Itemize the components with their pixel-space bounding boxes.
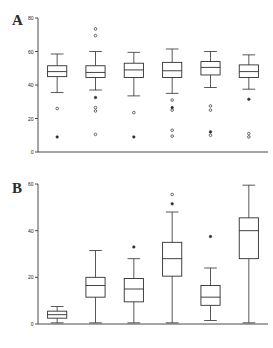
box-iqr: [163, 62, 182, 77]
y-axis-tick-label: 0: [31, 321, 34, 327]
box-iqr: [163, 242, 182, 276]
boxplot-2: [86, 251, 105, 323]
boxplot-4: [163, 193, 182, 323]
boxplot-3: [124, 52, 143, 138]
outlier-point: [209, 134, 212, 137]
outlier-point: [171, 193, 174, 196]
y-axis-tick-label: 60: [28, 181, 34, 187]
outlier-point: [171, 109, 174, 112]
boxplot-figure: A 020406080 B 0204060: [0, 0, 273, 348]
y-axis-tick-label: 20: [28, 116, 34, 122]
outlier-point: [94, 28, 97, 31]
boxplot-5: [201, 235, 220, 320]
outlier-point: [133, 111, 136, 114]
outlier-point: [94, 133, 97, 136]
box-iqr: [201, 286, 220, 306]
y-axis-tick-label: 60: [28, 49, 34, 55]
outlier-point: [209, 109, 212, 112]
outlier-point: [133, 246, 136, 249]
box-iqr: [86, 277, 105, 297]
outlier-point: [209, 235, 212, 238]
y-axis-tick-label: 40: [28, 82, 34, 88]
panel-b-plot: 0204060: [0, 175, 273, 348]
outlier-point: [56, 107, 59, 110]
box-iqr: [124, 279, 143, 302]
y-axis-tick-label: 40: [28, 228, 34, 234]
panel-a: A 020406080: [0, 0, 273, 175]
outlier-point: [171, 129, 174, 132]
boxplot-5: [201, 52, 220, 137]
boxplot-6: [239, 55, 258, 138]
outlier-point: [248, 132, 251, 135]
outlier-point: [56, 136, 59, 139]
boxplot-4: [163, 49, 182, 137]
y-axis-tick-label: 80: [28, 15, 34, 21]
outlier-point: [171, 203, 174, 206]
outlier-point: [248, 136, 251, 139]
panel-a-plot: 020406080: [0, 0, 273, 175]
boxplot-3: [124, 246, 143, 323]
outlier-point: [133, 136, 136, 139]
y-axis-tick-label: 0: [31, 149, 34, 155]
boxplot-1: [48, 307, 67, 323]
outlier-point: [94, 106, 97, 109]
box-iqr: [86, 66, 105, 78]
box-iqr: [201, 62, 220, 75]
outlier-point: [94, 110, 97, 113]
y-axis-tick-label: 20: [28, 274, 34, 280]
outlier-point: [209, 131, 212, 134]
outlier-point: [248, 98, 251, 101]
panel-b: B 0204060: [0, 175, 273, 348]
outlier-point: [209, 105, 212, 108]
boxplot-1: [48, 54, 67, 138]
outlier-point: [171, 135, 174, 138]
outlier-point: [94, 96, 97, 99]
boxplot-6: [239, 185, 258, 323]
outlier-point: [94, 34, 97, 37]
boxplot-2: [86, 28, 105, 136]
outlier-point: [171, 99, 174, 102]
box-iqr: [239, 218, 258, 259]
